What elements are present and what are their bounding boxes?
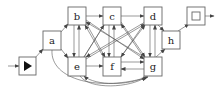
node-d-label: d: [150, 11, 157, 22]
node-h-label: h: [168, 35, 175, 46]
node-b-label: b: [74, 11, 80, 22]
edge-a-b: [61, 24, 68, 32]
state-diagram: a b c d h e f g: [0, 0, 223, 95]
node-e[interactable]: e: [68, 57, 86, 76]
node-c-label: c: [109, 11, 115, 22]
node-a[interactable]: a: [43, 31, 61, 50]
node-c[interactable]: c: [103, 7, 121, 25]
node-d[interactable]: d: [144, 7, 162, 25]
node-g[interactable]: g: [144, 57, 162, 76]
edge-g-h: [156, 49, 165, 57]
stop-square-icon: [192, 12, 200, 20]
node-a-label: a: [49, 35, 55, 46]
end-node[interactable]: [187, 7, 205, 25]
edge-d-h: [158, 25, 164, 31]
node-e-label: e: [74, 61, 80, 72]
start-node[interactable]: [19, 57, 36, 75]
edge-f-d: [120, 25, 145, 58]
node-h[interactable]: h: [162, 31, 180, 49]
node-g-label: g: [150, 61, 157, 72]
edge-a-e: [61, 49, 68, 58]
node-b[interactable]: b: [68, 7, 86, 25]
edge-a-g: [52, 50, 148, 83]
node-f[interactable]: f: [103, 57, 121, 76]
